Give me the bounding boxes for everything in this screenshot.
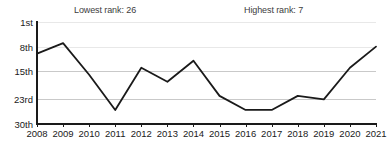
- x-tick-2019: [324, 123, 325, 127]
- x-tick-label-2021: 2021: [365, 128, 386, 139]
- y-tick-label-8th: 8th: [20, 41, 33, 52]
- x-tick-label-2016: 2016: [235, 128, 256, 139]
- x-tick-2013: [167, 123, 168, 127]
- y-tick-label-1st: 1st: [20, 17, 33, 28]
- x-tick-label-2013: 2013: [157, 128, 178, 139]
- x-tick-2014: [193, 123, 194, 127]
- x-tick-2015: [220, 123, 221, 127]
- x-tick-label-2010: 2010: [79, 128, 100, 139]
- x-tick-2017: [272, 123, 273, 127]
- x-tick-2016: [246, 123, 247, 127]
- x-tick-label-2008: 2008: [26, 128, 47, 139]
- annotation-highest-rank: Highest rank: 7: [244, 5, 303, 15]
- x-tick-label-2011: 2011: [105, 128, 125, 139]
- x-tick-label-2018: 2018: [287, 128, 308, 139]
- x-tick-label-2014: 2014: [183, 128, 204, 139]
- x-tick-2021: [376, 123, 377, 127]
- rank-series-polyline: [37, 43, 376, 110]
- x-tick-label-2017: 2017: [261, 128, 282, 139]
- x-axis-line: [36, 123, 376, 125]
- x-tick-2018: [298, 123, 299, 127]
- y-tick-label-23rd: 23rd: [14, 94, 33, 105]
- x-tick-2008: [37, 123, 38, 127]
- x-tick-2010: [89, 123, 90, 127]
- y-axis-line: [36, 21, 38, 125]
- x-tick-label-2020: 2020: [339, 128, 360, 139]
- y-tick-label-15th: 15th: [15, 66, 34, 77]
- x-tick-2009: [63, 123, 64, 127]
- x-tick-label-2009: 2009: [52, 128, 73, 139]
- x-tick-label-2019: 2019: [313, 128, 334, 139]
- x-tick-2012: [141, 123, 142, 127]
- x-axis-labels: 2008200920102011201220132014201520162017…: [0, 128, 383, 148]
- series-line: [37, 22, 376, 124]
- x-tick-label-2015: 2015: [209, 128, 230, 139]
- x-tick-label-2012: 2012: [131, 128, 152, 139]
- x-tick-2011: [115, 123, 116, 127]
- annotation-lowest-rank: Lowest rank: 26: [74, 5, 136, 15]
- x-tick-2020: [350, 123, 351, 127]
- plot-area: [37, 22, 376, 124]
